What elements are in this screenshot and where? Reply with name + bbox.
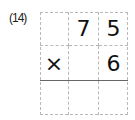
- grid-cell-r0-c2: 5: [99, 12, 128, 46]
- operator-cell: ×: [40, 46, 69, 80]
- answer-cell-c0[interactable]: [40, 81, 69, 115]
- grid-cell-r1-c1: [69, 46, 99, 80]
- answer-cell-c1[interactable]: [69, 81, 99, 115]
- grid-cell-r0-c1: 7: [69, 12, 99, 46]
- answer-cell-c2[interactable]: [99, 81, 128, 115]
- multiplication-grid: 7 5 × 6: [40, 12, 128, 115]
- problem-number-label: (14): [9, 11, 26, 25]
- grid-cell-r1-c2: 6: [99, 46, 128, 80]
- grid-cell-r0-c0: [40, 12, 69, 46]
